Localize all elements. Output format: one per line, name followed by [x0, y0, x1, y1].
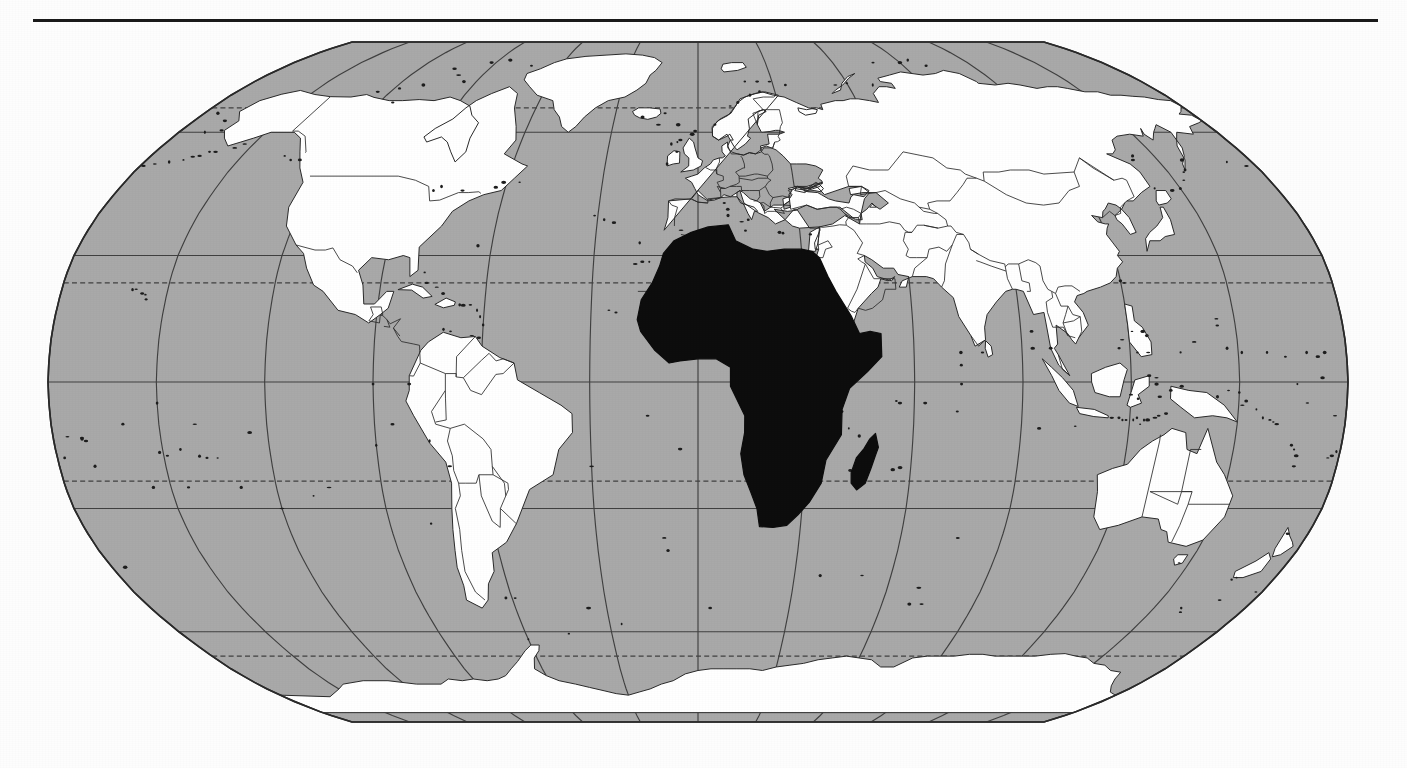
- figure-page: [0, 0, 1407, 768]
- world-map-figure: [0, 30, 1407, 740]
- world-map-svg: [0, 30, 1407, 740]
- horizontal-rule: [33, 19, 1378, 22]
